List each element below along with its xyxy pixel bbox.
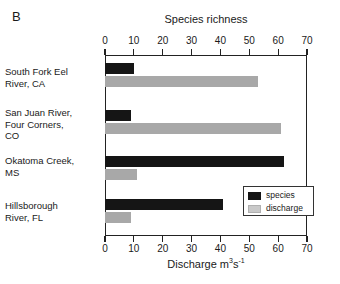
tick-bottom-60 (278, 236, 279, 242)
category-label-1-line-2: CO (5, 130, 97, 142)
tick-bottom-50 (249, 236, 250, 242)
bottom-axis-title-main: Discharge m (167, 258, 229, 270)
bar-discharge-3 (105, 212, 131, 223)
category-label-0-line-1: River, CA (5, 78, 97, 90)
tick-top-10 (133, 49, 134, 55)
tick-bottom-10 (133, 236, 134, 242)
tick-bottom-30 (191, 236, 192, 242)
legend-swatch-discharge (248, 205, 261, 213)
category-label-2-line-1: MS (5, 167, 97, 179)
tick-bottom-20 (162, 236, 163, 242)
tick-label-top-70: 70 (296, 36, 318, 46)
tick-label-top-60: 60 (267, 36, 289, 46)
bar-species-3 (105, 199, 223, 210)
legend-label-species: species (266, 191, 295, 200)
legend-label-discharge: discharge (266, 204, 303, 213)
tick-bottom-40 (220, 236, 221, 242)
bar-species-2 (105, 156, 284, 167)
top-axis-title: Species richness (105, 14, 307, 25)
bar-discharge-1 (105, 123, 281, 134)
tick-label-bottom-20: 20 (152, 244, 174, 254)
bottom-axis-title: Discharge m3s-1 (105, 259, 307, 270)
category-label-3-line-0: Hillsborough (5, 200, 97, 212)
tick-label-top-50: 50 (238, 36, 260, 46)
tick-top-30 (191, 49, 192, 55)
tick-top-50 (249, 49, 250, 55)
tick-top-20 (162, 49, 163, 55)
tick-bottom-70 (306, 236, 307, 242)
legend-item-discharge: discharge (248, 203, 309, 214)
tick-label-bottom-40: 40 (209, 244, 231, 254)
tick-label-bottom-0: 0 (94, 244, 116, 254)
bar-species-1 (105, 110, 131, 121)
legend-item-species: species (248, 190, 309, 201)
tick-bottom-0 (104, 236, 105, 242)
category-label-1-line-1: Four Corners, (5, 119, 97, 131)
category-label-0-line-0: South Fork Eel (5, 66, 97, 78)
tick-label-bottom-60: 60 (267, 244, 289, 254)
category-label-2-line-0: Okatoma Creek, (5, 155, 97, 167)
tick-top-60 (278, 49, 279, 55)
panel-letter: B (12, 10, 21, 23)
category-label-1: San Juan River,Four Corners,CO (5, 107, 97, 142)
tick-label-top-20: 20 (152, 36, 174, 46)
tick-label-top-30: 30 (181, 36, 203, 46)
tick-top-40 (220, 49, 221, 55)
tick-top-0 (104, 49, 105, 55)
legend: speciesdischarge (243, 186, 314, 216)
figure-panel-b: B Species richness 001010202030304040505… (0, 0, 340, 284)
bar-discharge-0 (105, 76, 258, 87)
legend-swatch-species (248, 192, 261, 200)
category-label-3: HillsboroughRiver, FL (5, 200, 97, 223)
tick-top-70 (306, 49, 307, 55)
tick-label-bottom-50: 50 (238, 244, 260, 254)
bar-species-0 (105, 63, 134, 74)
category-label-3-line-1: River, FL (5, 212, 97, 224)
tick-label-bottom-10: 10 (123, 244, 145, 254)
tick-label-top-10: 10 (123, 36, 145, 46)
bottom-axis-title-exponent-minus1: -1 (238, 257, 244, 264)
tick-label-top-40: 40 (209, 36, 231, 46)
tick-label-top-0: 0 (94, 36, 116, 46)
bar-discharge-2 (105, 169, 137, 180)
category-label-2: Okatoma Creek,MS (5, 155, 97, 178)
category-label-0: South Fork EelRiver, CA (5, 66, 97, 89)
tick-label-bottom-70: 70 (296, 244, 318, 254)
tick-label-bottom-30: 30 (181, 244, 203, 254)
category-label-1-line-0: San Juan River, (5, 107, 97, 119)
